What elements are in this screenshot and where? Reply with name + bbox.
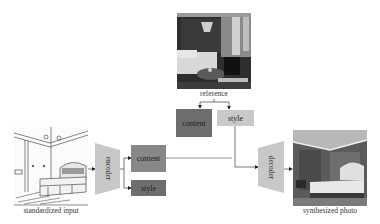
reference-split-arrows [200,99,229,109]
standardized-input-image [14,127,88,205]
encoder-split-arrows [120,158,131,188]
reference-label: reference [177,89,251,98]
synthesized-photo-label: synthesized photo [285,206,375,215]
decoder-label: decoder [267,152,276,184]
reference-content-box: content [176,109,212,137]
encoder-label: encoder [104,153,113,185]
style-to-decoder-arrow [235,126,258,167]
reference-style-box: style [217,110,254,126]
input-style-box: style [131,180,166,196]
synthesized-photo-image [293,130,367,206]
input-content-box: content [131,145,166,172]
reference-image [177,13,251,89]
standardized-input-label: standardized input [4,206,98,215]
